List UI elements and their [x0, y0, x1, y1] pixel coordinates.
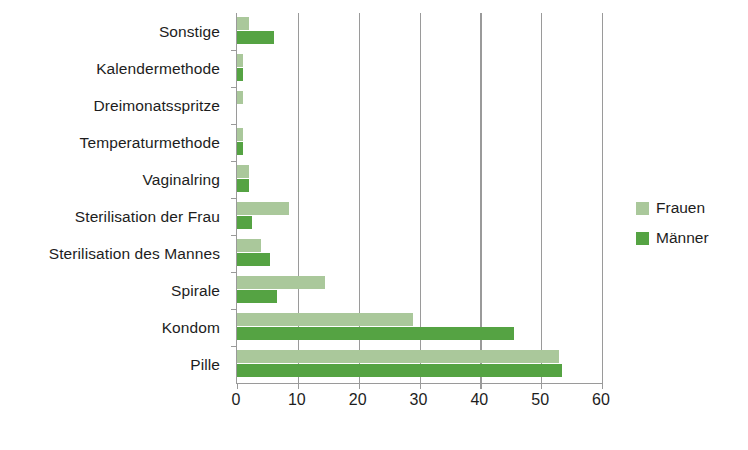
category-label-sonstige: Sonstige — [0, 23, 220, 40]
bar-group — [237, 161, 602, 198]
category-label-sterilisation-der-frau: Sterilisation der Frau — [0, 208, 220, 225]
horizontal-bar-chart: PilleKondomSpiraleSterilisation des Mann… — [0, 0, 748, 450]
bar-frauen-8 — [237, 54, 243, 67]
legend-label: Männer — [656, 229, 709, 247]
category-label-pille: Pille — [0, 356, 220, 373]
x-tick-60 — [602, 383, 603, 389]
x-tick-label-40: 40 — [470, 390, 488, 410]
legend-item-frauen[interactable]: Frauen — [636, 193, 746, 223]
chart-legend: FrauenMänner — [636, 193, 746, 253]
x-tick-label-50: 50 — [531, 390, 549, 410]
category-label-spirale: Spirale — [0, 282, 220, 299]
category-label-dreimonatsspritze: Dreimonatsspritze — [0, 97, 220, 114]
x-tick-30 — [420, 383, 421, 389]
x-axis-labels: 0102030405060 — [236, 390, 601, 416]
plot-area — [236, 13, 602, 384]
x-tick-20 — [359, 383, 360, 389]
category-tick-3 — [231, 235, 237, 236]
x-tick-40 — [480, 383, 481, 389]
x-tick-label-30: 30 — [410, 390, 428, 410]
bar-frauen-3 — [237, 239, 261, 252]
category-label-kalendermethode: Kalendermethode — [0, 60, 220, 77]
category-tick-0 — [231, 346, 237, 347]
bar-frauen-2 — [237, 276, 325, 289]
category-tick-1 — [231, 309, 237, 310]
x-tick-label-60: 60 — [592, 390, 610, 410]
bar-group — [237, 124, 602, 161]
bar-männer-4 — [237, 216, 252, 229]
legend-label: Frauen — [656, 199, 705, 217]
bar-group — [237, 309, 602, 346]
category-tick-7 — [231, 87, 237, 88]
bar-frauen-5 — [237, 165, 249, 178]
gridline-60 — [602, 13, 603, 383]
bar-group — [237, 346, 602, 383]
category-label-vaginalring: Vaginalring — [0, 171, 220, 188]
category-label-temperaturmethode: Temperaturmethode — [0, 134, 220, 151]
bar-group — [237, 235, 602, 272]
bar-frauen-4 — [237, 202, 289, 215]
category-tick-5 — [231, 161, 237, 162]
bar-group — [237, 198, 602, 235]
category-tick-4 — [231, 198, 237, 199]
bar-frauen-6 — [237, 128, 243, 141]
category-tick-6 — [231, 124, 237, 125]
bar-männer-6 — [237, 142, 243, 155]
legend-item-männer[interactable]: Männer — [636, 223, 746, 253]
bar-frauen-7 — [237, 91, 243, 104]
x-tick-10 — [298, 383, 299, 389]
bar-group — [237, 87, 602, 124]
bar-männer-0 — [237, 364, 562, 377]
bar-frauen-9 — [237, 17, 249, 30]
category-axis: PilleKondomSpiraleSterilisation des Mann… — [0, 13, 228, 383]
x-tick-label-10: 10 — [288, 390, 306, 410]
x-tick-label-0: 0 — [232, 390, 241, 410]
bar-group — [237, 50, 602, 87]
bar-männer-8 — [237, 68, 243, 81]
legend-swatch-icon — [636, 232, 649, 245]
category-label-kondom: Kondom — [0, 319, 220, 336]
x-tick-0 — [237, 383, 238, 389]
bar-männer-9 — [237, 31, 274, 44]
legend-swatch-icon — [636, 202, 649, 215]
bar-group — [237, 13, 602, 50]
bar-frauen-1 — [237, 313, 413, 326]
x-tick-50 — [541, 383, 542, 389]
bar-frauen-0 — [237, 350, 559, 363]
bar-männer-2 — [237, 290, 277, 303]
category-tick-8 — [231, 50, 237, 51]
x-tick-label-20: 20 — [349, 390, 367, 410]
bar-group — [237, 272, 602, 309]
bar-männer-3 — [237, 253, 270, 266]
bar-männer-1 — [237, 327, 514, 340]
category-tick-2 — [231, 272, 237, 273]
category-label-sterilisation-des-mannes: Sterilisation des Mannes — [0, 245, 220, 262]
bar-männer-5 — [237, 179, 249, 192]
